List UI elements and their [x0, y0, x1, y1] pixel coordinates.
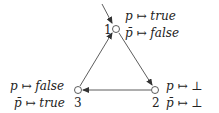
node-3-assign-pbar: p̄ ↦ true	[14, 96, 65, 110]
node-2-assign-p: p ↦ ⊥	[166, 79, 203, 93]
edge-1-2	[119, 33, 152, 85]
node-1	[113, 26, 120, 33]
node-1-label: 1	[104, 23, 112, 37]
node-1-assign-p: p ↦ true	[125, 9, 176, 23]
node-2-assign-pbar: p̄ ↦ ⊥	[166, 96, 203, 110]
node-1-assign-pbar: p̄ ↦ false	[125, 26, 179, 40]
node-2	[152, 87, 159, 94]
node-3	[75, 87, 82, 94]
initial-arrow	[102, 4, 112, 23]
edge-3-1	[80, 33, 112, 86]
node-2-label: 2	[152, 96, 160, 110]
node-3-assign-p: p ↦ false	[10, 79, 64, 93]
node-3-label: 3	[74, 96, 82, 110]
state-diagram: 1 2 3 p ↦ true p̄ ↦ false p ↦ ⊥ p̄ ↦ ⊥ p…	[0, 0, 219, 113]
